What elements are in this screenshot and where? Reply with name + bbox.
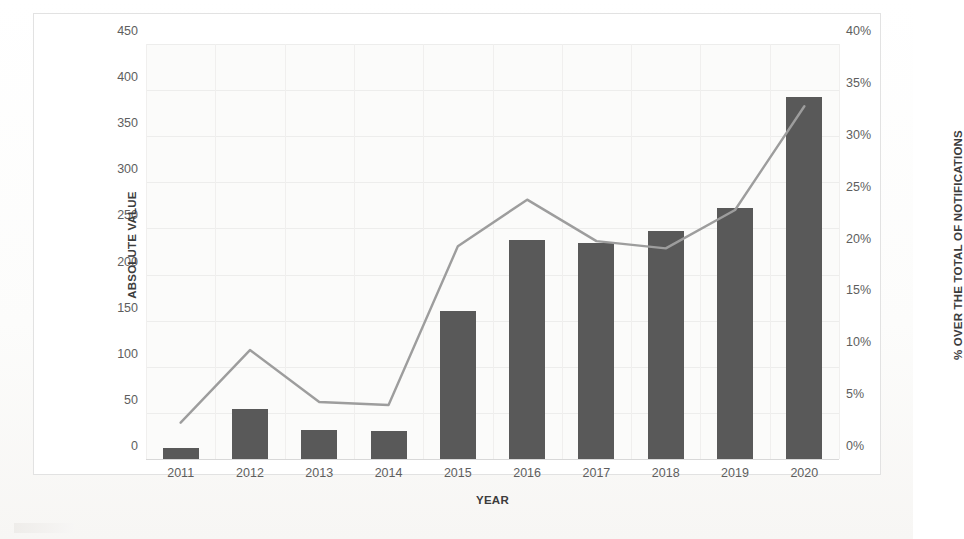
x-axis-tick-label: 2019 <box>700 466 769 486</box>
x-axis-tick-label: 2012 <box>215 466 284 486</box>
x-axis-tick-label: 2020 <box>770 466 839 486</box>
y-axis-right-tick-label: 35% <box>846 76 892 90</box>
y-axis-right-tick-label: 30% <box>846 128 892 142</box>
y-axis-right-tick-label: 10% <box>846 335 892 349</box>
line-series <box>146 44 839 459</box>
y-axis-right-title-holder: % OVER THE TOTAL OF NOTIFICATIONS <box>896 14 916 476</box>
x-axis-baseline <box>146 459 839 460</box>
x-axis-tick-labels: 2011201220132014201520162017201820192020 <box>146 466 839 486</box>
y-axis-left-title-holder: ABSOLUTE VALUE <box>80 14 100 476</box>
y-axis-right-tick-label: 5% <box>846 387 892 401</box>
x-axis-tick-label: 2011 <box>146 466 215 486</box>
x-axis-tick-label: 2018 <box>631 466 700 486</box>
x-axis-tick-label: 2016 <box>492 466 561 486</box>
x-axis-tick-label: 2015 <box>423 466 492 486</box>
y-axis-right-tick-label: 20% <box>846 232 892 246</box>
x-axis-tick-label: 2013 <box>285 466 354 486</box>
x-axis-tick-label: 2014 <box>354 466 423 486</box>
gridline-vertical <box>839 44 840 459</box>
x-axis-title: YEAR <box>146 494 839 506</box>
chart-frame: 450400350300250200150100500 ABSOLUTE VAL… <box>33 13 881 475</box>
y-axis-right-title: % OVER THE TOTAL OF NOTIFICATIONS <box>952 95 964 395</box>
page-artifact <box>14 523 74 533</box>
y-axis-right-tick-label: 40% <box>846 24 892 38</box>
x-axis-tick-label: 2017 <box>562 466 631 486</box>
y-axis-right-tick-label: 15% <box>846 283 892 297</box>
y-axis-left-title: ABSOLUTE VALUE <box>126 135 138 355</box>
y-axis-right-tick-label: 0% <box>846 439 892 453</box>
percentage-line <box>181 106 805 422</box>
y-axis-right-ticks: 40%35%30%25%20%15%10%5%0% <box>846 14 896 476</box>
y-axis-right-tick-label: 25% <box>846 180 892 194</box>
